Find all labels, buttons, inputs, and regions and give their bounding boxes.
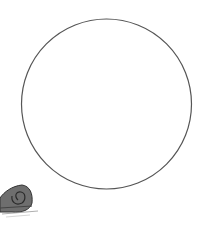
game-canvas[interactable] bbox=[0, 0, 207, 240]
target-circle[interactable] bbox=[22, 19, 192, 189]
snail-icon bbox=[0, 185, 38, 217]
